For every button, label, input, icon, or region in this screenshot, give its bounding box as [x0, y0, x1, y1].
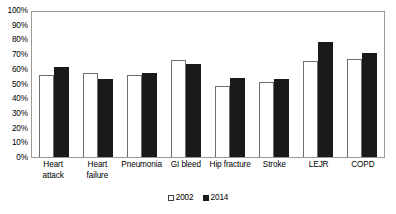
x-axis-label-line: LEJR [297, 160, 341, 171]
plot-area [31, 11, 385, 158]
x-axis-label-line: Stroke [252, 160, 296, 171]
open-square-icon [168, 195, 174, 201]
bar-group [76, 12, 120, 157]
bar-group [32, 12, 76, 157]
y-tick-label: 40% [12, 95, 28, 103]
bar-2014 [362, 53, 377, 157]
legend-label: 2014 [211, 194, 229, 202]
bar-chart: 0%10%20%30%40%50%60%70%80%90%100% Hearta… [0, 0, 396, 214]
bar-2014 [98, 79, 113, 157]
bar-2002 [347, 59, 362, 157]
legend-item[interactable]: 2014 [203, 194, 229, 202]
bar-2014 [274, 79, 289, 157]
y-tick-label: 60% [12, 66, 28, 74]
x-axis-label-line: Heart [31, 160, 75, 171]
x-axis-label: Stroke [252, 160, 296, 190]
x-axis-label: Heartattack [31, 160, 75, 190]
x-axis-label-line: Hip fracture [208, 160, 252, 171]
y-tick-label: 90% [12, 22, 28, 30]
bar-2014 [54, 67, 69, 157]
x-axis-label-line: COPD [341, 160, 385, 171]
y-tick-label: 70% [12, 51, 28, 59]
bar-group [252, 12, 296, 157]
bar-group [164, 12, 208, 157]
bar-2002 [127, 75, 142, 157]
x-axis-label: LEJR [297, 160, 341, 190]
y-tick-label: 50% [12, 80, 28, 88]
x-axis-label-line: attack [31, 171, 75, 182]
y-tick-label: 80% [12, 36, 28, 44]
x-axis-label-line: GI bleed [164, 160, 208, 171]
y-tick-label: 100% [7, 7, 28, 15]
bar-2014 [318, 42, 333, 157]
x-axis-label-line: Pneumonia [120, 160, 164, 171]
legend-item[interactable]: 2002 [168, 194, 194, 202]
bars-layer [32, 12, 384, 157]
y-axis: 0%10%20%30%40%50%60%70%80%90%100% [0, 0, 30, 214]
y-tick-label: 10% [12, 139, 28, 147]
x-axis-label: Heartfailure [75, 160, 119, 190]
bar-2002 [215, 86, 230, 157]
bar-2002 [259, 82, 274, 157]
bar-group [296, 12, 340, 157]
x-axis-label: Pneumonia [120, 160, 164, 190]
bar-2014 [142, 73, 157, 157]
x-axis-label-line: failure [75, 171, 119, 182]
x-axis-label-line: Heart [75, 160, 119, 171]
y-tick-label: 30% [12, 110, 28, 118]
bar-2002 [303, 61, 318, 157]
bar-2002 [171, 60, 186, 157]
x-axis-label: COPD [341, 160, 385, 190]
bar-2014 [186, 64, 201, 157]
x-axis-label: GI bleed [164, 160, 208, 190]
bar-2014 [230, 78, 245, 157]
filled-square-icon [203, 195, 209, 201]
bar-2002 [39, 75, 54, 157]
bar-group [120, 12, 164, 157]
bar-group [340, 12, 384, 157]
bar-group [208, 12, 252, 157]
chart-legend: 20022014 [0, 194, 396, 202]
bar-2002 [83, 73, 98, 157]
y-tick-label: 20% [12, 124, 28, 132]
x-axis-labels: HeartattackHeartfailurePneumoniaGI bleed… [31, 160, 385, 190]
legend-label: 2002 [176, 194, 194, 202]
y-tick-label: 0% [16, 154, 28, 162]
x-axis-label: Hip fracture [208, 160, 252, 190]
